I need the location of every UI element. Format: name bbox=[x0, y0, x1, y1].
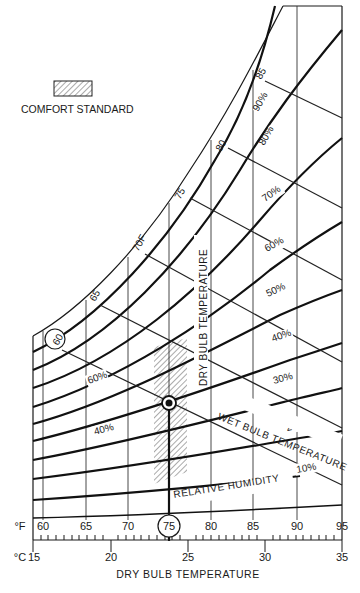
celsius-tick-labels: °C 15 20 25 30 35 bbox=[14, 551, 348, 563]
svg-text:70: 70 bbox=[122, 520, 134, 532]
psychrometric-chart: COMFORT STANDARD bbox=[0, 0, 360, 593]
rh-curve-70 bbox=[33, 138, 342, 388]
svg-text:35: 35 bbox=[336, 551, 348, 563]
axis-ticks bbox=[33, 535, 342, 552]
svg-text:85: 85 bbox=[247, 520, 259, 532]
svg-text:20: 20 bbox=[105, 551, 117, 563]
dry-bulb-vertical-label: DRY BULB TEMPERATURE bbox=[198, 249, 209, 386]
svg-text:75: 75 bbox=[163, 520, 175, 532]
x-axis: °F 60 65 70 80 85 90 95 75 °C 15 20 25 3… bbox=[14, 515, 348, 580]
fahrenheit-tick-labels: °F 60 65 70 80 85 90 95 bbox=[14, 520, 348, 532]
svg-text:25: 25 bbox=[182, 551, 194, 563]
rh-curve-60 bbox=[33, 222, 342, 407]
svg-text:80: 80 bbox=[205, 520, 217, 532]
svg-text:15: 15 bbox=[28, 551, 40, 563]
svg-text:10%: 10% bbox=[295, 461, 317, 475]
fahrenheit-unit: °F bbox=[14, 520, 25, 532]
wet-bulb-80 bbox=[228, 148, 342, 208]
svg-text:30: 30 bbox=[259, 551, 271, 563]
wet-bulb-labels: 65 70F 75 80 85 bbox=[87, 65, 268, 303]
legend: COMFORT STANDARD bbox=[21, 81, 134, 115]
svg-text:95: 95 bbox=[336, 520, 348, 532]
celsius-unit: °C bbox=[14, 551, 26, 563]
comfort-standard-swatch bbox=[54, 81, 92, 96]
svg-text:60: 60 bbox=[37, 520, 49, 532]
circled-wet-bulb-60: 60 bbox=[45, 329, 66, 349]
wet-bulb-65 bbox=[100, 305, 342, 428]
wet-bulb-75 bbox=[190, 198, 342, 280]
svg-text:70F: 70F bbox=[130, 233, 148, 253]
saturation-curve bbox=[33, 6, 283, 336]
svg-text:65: 65 bbox=[87, 287, 102, 303]
circled-75: 75 bbox=[158, 515, 180, 537]
rh-curve-90 bbox=[33, 6, 275, 352]
svg-text:85: 85 bbox=[253, 65, 268, 81]
x-axis-title: DRY BULB TEMPERATURE bbox=[116, 568, 259, 580]
svg-text:65: 65 bbox=[80, 520, 92, 532]
rh-curve-0 bbox=[33, 505, 342, 518]
svg-text:90: 90 bbox=[291, 520, 303, 532]
svg-text:30%: 30% bbox=[272, 370, 294, 386]
svg-text:75: 75 bbox=[172, 185, 187, 201]
legend-label: COMFORT STANDARD bbox=[21, 103, 134, 115]
